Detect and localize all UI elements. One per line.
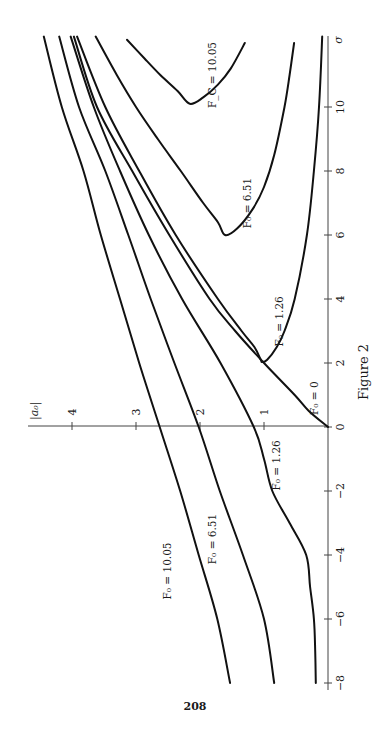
- chart: −8−6−4−20246810 1234 F₀ = 10.05F₀ = 6.51…: [0, 0, 388, 740]
- curve-label: F_C = 10.05: [206, 42, 219, 108]
- curve-label: F₀ = 10.05: [161, 542, 173, 599]
- curve-f0-0: [74, 37, 328, 427]
- a0-ticks: 1234: [66, 409, 271, 431]
- a0-tick-label: 3: [130, 409, 143, 416]
- sigma-tick-label: −6: [334, 611, 347, 627]
- a0-tick-label: 2: [194, 409, 207, 416]
- curve-labels: F₀ = 10.05F₀ = 6.51F₀ = 1.26F₀ = 0F₀ = 1…: [161, 42, 320, 600]
- sigma-tick-label: 4: [334, 296, 347, 303]
- curve-f0-6-51-u-curve: [96, 37, 294, 236]
- sigma-axis-label: σ: [332, 36, 345, 44]
- curve-fc-10-05-u-curve: [127, 40, 245, 104]
- curve-label: F₀ = 1.26: [273, 296, 285, 347]
- a0-tick-label: 4: [66, 409, 79, 416]
- sigma-tick-label: −2: [334, 483, 347, 499]
- figure-caption: Figure 2: [356, 344, 371, 400]
- sigma-tick-label: −4: [334, 547, 347, 563]
- sigma-tick-label: 2: [334, 360, 347, 367]
- axes: [28, 36, 328, 690]
- curve-label: F₀ = 1.26: [270, 440, 282, 491]
- sigma-tick-label: 0: [334, 424, 347, 431]
- curve-label: F₀ = 0: [308, 381, 320, 415]
- sigma-ticks: −8−6−4−20246810: [324, 100, 347, 691]
- curve-label: F₀ = 6.51: [206, 514, 218, 564]
- sigma-tick-label: −8: [334, 675, 347, 691]
- a0-axis-label: |a₀|: [28, 402, 42, 420]
- a0-tick-label: 1: [258, 409, 271, 416]
- curve-f0-10-05-left-branch: [44, 37, 230, 683]
- sigma-tick-label: 8: [334, 168, 347, 175]
- curve-label: F₀ = 6.51: [241, 178, 253, 228]
- sigma-tick-label: 10: [334, 100, 347, 114]
- sigma-tick-label: 6: [334, 232, 347, 239]
- page-number: 208: [184, 700, 207, 713]
- curves: [44, 37, 328, 683]
